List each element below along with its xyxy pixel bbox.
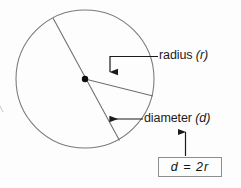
- diameter-label: diameter (d): [144, 111, 210, 125]
- diameter-label-symbol: (d): [195, 111, 210, 125]
- radius-label-symbol: (r): [196, 48, 208, 62]
- formula-box: d = 2r: [158, 157, 222, 177]
- figure-canvas: radius (r) diameter (d) d = 2r: [0, 0, 241, 188]
- radius-label: radius (r): [159, 48, 208, 62]
- formula-expression: d = 2r: [171, 160, 209, 174]
- diameter-label-text: diameter: [144, 111, 192, 125]
- radius-line: [85, 79, 153, 96]
- circle-center-dot: [82, 76, 88, 82]
- edge-artifact-mark: [0, 106, 3, 112]
- radius-label-text: radius: [159, 48, 192, 62]
